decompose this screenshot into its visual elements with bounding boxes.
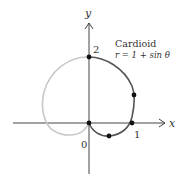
cardioid-right-half xyxy=(89,57,134,136)
x-axis-label: x xyxy=(169,117,176,130)
cardioid-diagram: y x 2 1 0 Cardioid r = 1 + sin θ xyxy=(0,0,185,181)
tick-label-2: 2 xyxy=(93,44,99,55)
point-x-intercept xyxy=(130,121,135,126)
tick-label-origin: 0 xyxy=(81,139,87,150)
curve-equation: r = 1 + sin θ xyxy=(115,50,170,60)
point-bottom xyxy=(107,134,112,139)
tick-label-1: 1 xyxy=(134,129,140,140)
point-right xyxy=(132,93,137,98)
curve-title: Cardioid xyxy=(115,38,156,49)
y-axis-label: y xyxy=(84,7,92,20)
point-origin xyxy=(87,121,92,126)
point-top xyxy=(87,55,92,60)
